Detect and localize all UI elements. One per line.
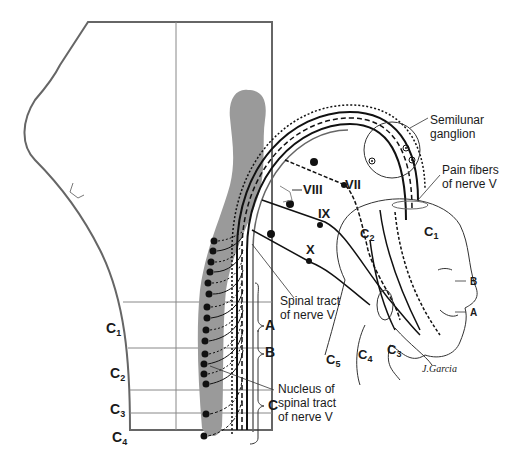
head-dermatome-c3: C3 <box>387 342 401 359</box>
face-a-label: A <box>470 307 477 318</box>
nerve-x-label: X <box>306 242 315 257</box>
head-dermatome-c1: C1 <box>424 224 438 241</box>
semilunar-ganglion <box>364 122 420 178</box>
nerve-viii-label: VIII <box>303 182 323 197</box>
head-dermatome-c2: C2 <box>360 226 374 243</box>
brace-b-label: B <box>265 344 275 360</box>
nucleus-label: Nucleus of spinal tract of nerve V <box>278 382 339 424</box>
trigeminal-diagram: A B C VII VIII IX X Semilunar ganglion <box>0 0 514 468</box>
segment-c1: C1 <box>106 320 121 338</box>
segment-c2: C2 <box>110 365 125 383</box>
cranial-nerves <box>252 160 420 335</box>
nerve-ix-label: IX <box>318 206 331 221</box>
brace-a-label: A <box>265 317 275 333</box>
nerve-vii-label: VII <box>345 177 361 192</box>
segment-dividers <box>123 302 272 413</box>
face-b-label: B <box>470 276 477 287</box>
segment-c3: C3 <box>110 401 125 419</box>
spinal-tract-label: Spinal tract of nerve V <box>280 294 343 322</box>
viii-marker <box>280 186 292 202</box>
brace-c-label: C <box>268 397 278 413</box>
pain-fibers-label: Pain fibers of nerve V <box>442 163 502 191</box>
artist-signature: J.Garcia <box>422 363 457 374</box>
semilunar-ganglion-label: Semilunar ganglion <box>430 113 487 141</box>
braces <box>250 283 264 444</box>
lateral-notch <box>70 183 84 198</box>
head-dermatome-c5: C5 <box>326 352 340 369</box>
segment-c4: C4 <box>112 429 127 447</box>
head-dermatome-c4: C4 <box>358 347 372 364</box>
